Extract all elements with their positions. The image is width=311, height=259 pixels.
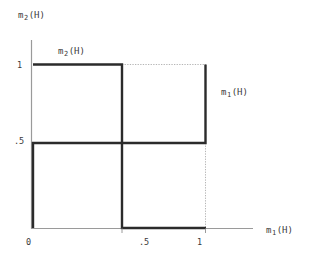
curve-label-m2: m2(H) [58, 47, 85, 58]
x-axis-label: m1(H) [266, 226, 293, 237]
y-tick-label-half: .5 [14, 137, 24, 146]
y-axis-label-arg: (H) [29, 10, 45, 20]
curve-label-m2-arg: (H) [69, 46, 85, 56]
step-function-figure [0, 0, 311, 259]
figure-background [0, 0, 311, 259]
curve-label-m1-arg: (H) [232, 87, 248, 97]
curve-label-m1: m1(H) [221, 88, 248, 99]
y-axis-label: m2(H) [18, 11, 45, 22]
origin-tick-label: 0 [26, 238, 31, 247]
x-tick-label-one: 1 [197, 238, 202, 247]
y-tick-label-one: 1 [17, 61, 22, 70]
x-tick-label-half: .5 [139, 238, 149, 247]
x-axis-label-arg: (H) [277, 225, 293, 235]
